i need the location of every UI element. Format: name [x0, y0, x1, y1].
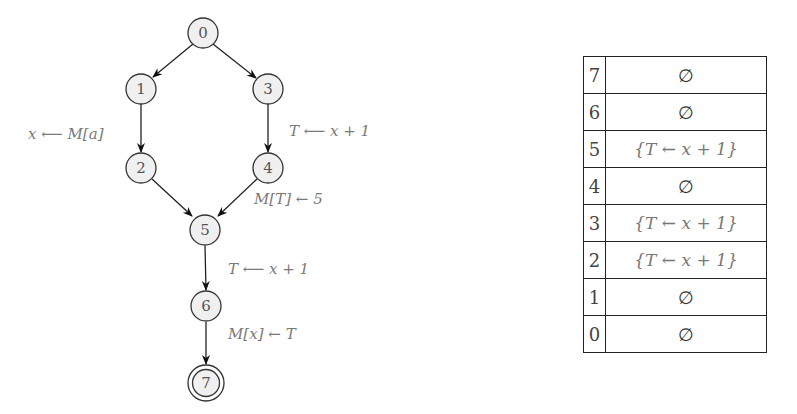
table-row: 6 ∅	[584, 94, 767, 131]
edge-label-1-2: x ⟵ M[a]	[28, 125, 104, 143]
row-index: 5	[584, 131, 606, 168]
node-6: 6	[191, 291, 221, 321]
edge-label-5-6: T ⟵ x + 1	[228, 260, 309, 278]
row-index: 7	[584, 57, 606, 94]
edge-0-3	[213, 44, 256, 78]
node-2: 2	[126, 153, 156, 183]
node-set-table: 7 ∅ 6 ∅ 5 {T ← x + 1} 4 ∅ 3 {T ← x + 1} …	[583, 56, 767, 353]
row-value: ∅	[606, 316, 767, 353]
edge-label-6-7: M[x] ← T	[228, 325, 296, 343]
edge-0-1	[153, 44, 193, 77]
table-row: 0 ∅	[584, 316, 767, 353]
node-0: 0	[188, 18, 218, 48]
node-label: 5	[200, 221, 210, 239]
row-value: ∅	[606, 279, 767, 316]
node-label: 4	[263, 159, 273, 177]
row-value: ∅	[606, 57, 767, 94]
row-index: 4	[584, 168, 606, 205]
node-7-final: 7	[188, 365, 224, 401]
node-3: 3	[253, 74, 283, 104]
row-value: ∅	[606, 168, 767, 205]
node-label: 2	[136, 159, 146, 177]
table-row: 7 ∅	[584, 57, 767, 94]
node-4: 4	[253, 153, 283, 183]
row-index: 2	[584, 242, 606, 279]
row-index: 6	[584, 94, 606, 131]
row-value: {T ← x + 1}	[606, 205, 767, 242]
node-1: 1	[126, 74, 156, 104]
row-index: 1	[584, 279, 606, 316]
row-index: 3	[584, 205, 606, 242]
node-label: 3	[263, 80, 273, 98]
edge-5-6	[205, 246, 206, 290]
control-flow-graph: 0 1 2 3 4 5 6 7	[0, 0, 420, 414]
node-5: 5	[190, 215, 220, 245]
node-label: 7	[201, 374, 211, 392]
row-value: ∅	[606, 94, 767, 131]
node-label: 1	[136, 80, 146, 98]
edge-label-3-4: T ⟵ x + 1	[289, 122, 370, 140]
edge-2-5	[152, 179, 192, 216]
table-row: 1 ∅	[584, 279, 767, 316]
table-row: 4 ∅	[584, 168, 767, 205]
table-row: 5 {T ← x + 1}	[584, 131, 767, 168]
edge-4-5	[218, 179, 257, 216]
row-value: {T ← x + 1}	[606, 242, 767, 279]
table-row: 2 {T ← x + 1}	[584, 242, 767, 279]
node-label: 0	[198, 24, 208, 42]
row-index: 0	[584, 316, 606, 353]
row-value: {T ← x + 1}	[606, 131, 767, 168]
node-label: 6	[201, 297, 211, 315]
edge-label-4-5: M[T] ← 5	[254, 190, 323, 208]
table-row: 3 {T ← x + 1}	[584, 205, 767, 242]
